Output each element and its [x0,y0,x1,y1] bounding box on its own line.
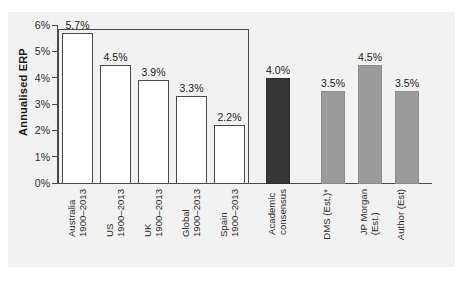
category-label-line2: consensus [278,189,289,235]
y-tick-3 [52,104,57,105]
plot-area: Annualised ERP 0%1%2%3%4%5%6% 5.7%4.5%3.… [0,0,463,283]
category-label-line1: Academic [266,193,277,235]
category-label: US1900–2013 [105,189,126,237]
category-label-line2: 1900–2013 [77,189,88,237]
category-label-line1: Global [180,209,191,237]
category-label: Global1900–2013 [181,189,202,237]
y-tick-4 [52,77,57,78]
bar [266,78,290,184]
bar-value-label: 3.5% [385,78,429,89]
category-label-line1: DMS (Est.)* [321,189,332,240]
bar-value-label: 3.9% [128,67,179,78]
y-tick-label: 1% [0,152,50,163]
y-tick-label: 4% [0,73,50,84]
category-label-line2: (Est.) [370,189,381,235]
category-label-line2: 1900–2013 [191,189,202,237]
bar-value-label: 2.2% [204,112,255,123]
category-label: Australia1900–2013 [67,189,88,237]
bar [321,91,345,184]
y-tick-label: 3% [0,99,50,110]
category-label-line1: UK [142,224,153,237]
category-label-line2: 1900–2013 [153,189,164,237]
bar [395,91,419,184]
y-tick-label: 2% [0,125,50,136]
bar-value-label: 3.5% [311,78,355,89]
category-label-line1: Author (Est) [395,189,406,240]
bar [138,80,169,184]
category-label: Academicconsensus [267,189,288,235]
bar-value-label: 4.5% [90,52,141,63]
bar [358,65,382,185]
bar-value-label: 4.5% [348,52,392,63]
bar-value-label: 3.3% [166,83,217,94]
chart-figure: Annualised ERP 0%1%2%3%4%5%6% 5.7%4.5%3.… [0,0,463,283]
category-label-line1: JP Morgan [358,189,369,235]
y-tick-5 [52,51,57,52]
category-label: Spain1900–2013 [219,189,240,237]
bar [176,96,207,184]
y-tick-0 [52,183,57,184]
category-label: JP Morgan(Est.) [359,189,380,235]
y-axis-line [57,25,58,184]
bar-value-label: 5.7% [52,20,103,31]
category-label-line2: 1900–2013 [115,189,126,237]
bar [62,33,93,184]
category-label-line1: US [104,224,115,237]
y-tick-2 [52,130,57,131]
category-label-line1: Spain [218,212,229,237]
category-label: UK1900–2013 [143,189,164,237]
category-label: DMS (Est.)* [322,189,333,240]
bar [100,65,131,185]
bar [214,125,245,184]
category-label-line1: Australia [66,200,77,237]
y-tick-label: 6% [0,20,50,31]
bar-value-label: 4.0% [256,65,300,76]
y-tick-1 [52,156,57,157]
y-tick-label: 0% [0,178,50,189]
category-label-line2: 1900–2013 [229,189,240,237]
y-tick-label: 5% [0,46,50,57]
category-label: Author (Est) [396,189,407,240]
